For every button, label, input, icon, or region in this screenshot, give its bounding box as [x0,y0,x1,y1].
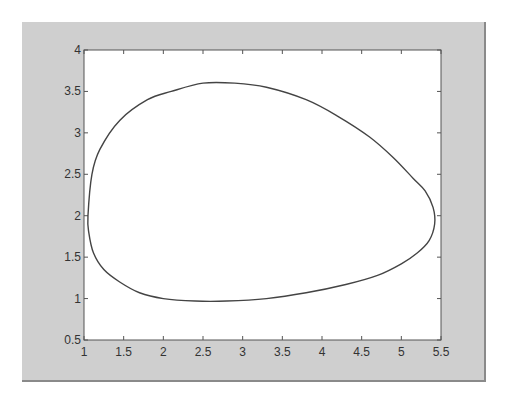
axes-area [84,50,441,340]
x-tick-label: 2.5 [195,345,212,359]
x-tick-label: 3 [239,345,246,359]
x-tick-label: 4 [319,345,326,359]
x-tick-label: 5.5 [433,345,450,359]
y-tick-label: 1 [74,292,81,306]
y-tick-label: 4 [74,43,81,57]
y-tick-label: 3.5 [64,84,81,98]
x-tick-label: 5 [398,345,405,359]
y-tick-label: 1.5 [64,250,81,264]
x-tick-label: 4.5 [353,345,370,359]
x-tick-label: 1.5 [115,345,132,359]
y-tick-label: 3 [74,126,81,140]
limit-cycle-chart: 11.522.533.544.555.50.511.522.533.54 [0,0,509,400]
x-tick-label: 2 [160,345,167,359]
y-tick-label: 0.5 [64,333,81,347]
x-tick-label: 3.5 [274,345,291,359]
x-tick-label: 1 [81,345,88,359]
y-tick-label: 2.5 [64,167,81,181]
y-tick-label: 2 [74,209,81,223]
